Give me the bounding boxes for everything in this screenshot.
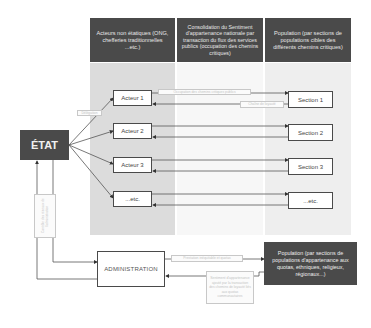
actor-node-1: Acteur 1	[113, 90, 152, 106]
edge-label-section1-to-actor1: Chaîne de loyauté	[240, 101, 284, 108]
section-node-1: Section 1	[288, 91, 333, 108]
edge-label-admin-to-state: Contrôle des réseaux de l'administration	[34, 194, 56, 238]
section-node-etc: ...etc.	[288, 192, 333, 209]
state-node: ÉTAT	[20, 130, 69, 160]
edge-label-admin-to-population: Prestation inéquitable et quotas	[171, 255, 243, 262]
section-node-3: Section 3	[288, 158, 333, 175]
edge-label-delegation: Délégation	[77, 110, 102, 116]
edge-label-actor1-to-section1: Occupation des chemins critiques publics	[158, 89, 251, 95]
actor-node-3: Acteur 3	[113, 157, 152, 173]
section-node-2: Section 2	[288, 124, 333, 141]
actor-node-2: Acteur 2	[113, 123, 152, 139]
administration-node: ADMINISTRATION	[97, 251, 165, 287]
actor-node-etc: ...etc.	[113, 191, 152, 207]
edge-label-population-to-admin: Sentiment d'appartenance ajouté par la t…	[206, 271, 254, 304]
population-quotas-node: Population (par sections de populations …	[264, 242, 357, 285]
